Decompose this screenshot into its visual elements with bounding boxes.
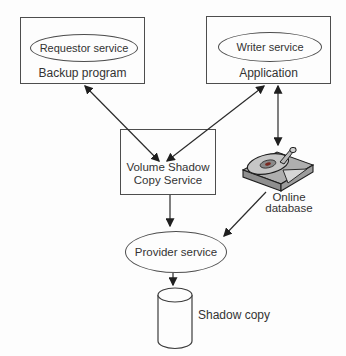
- requestor-service-ellipse: Requestor service: [30, 34, 138, 62]
- application-box: Writer service Application: [206, 16, 331, 84]
- hard-disk-icon: [243, 147, 313, 191]
- backup-program-box: Requestor service Backup program: [20, 17, 145, 84]
- vss-architecture-diagram: Requestor service Backup program Writer …: [0, 0, 346, 356]
- shadow-copy-cylinder-icon: [158, 288, 192, 349]
- vss-label: Volume Shadow Copy Service: [121, 161, 215, 187]
- online-database-label: Online database: [258, 192, 320, 214]
- online-database-label-line1: Online: [258, 192, 320, 203]
- online-database-label-line2: database: [258, 203, 320, 214]
- backup-program-label: Backup program: [21, 66, 144, 80]
- volume-shadow-copy-service-box: Volume Shadow Copy Service: [120, 129, 216, 195]
- writer-service-label: Writer service: [236, 41, 303, 53]
- requestor-service-label: Requestor service: [40, 42, 129, 54]
- vss-label-line2: Copy Service: [121, 174, 215, 187]
- vss-label-line1: Volume Shadow: [121, 161, 215, 174]
- writer-service-ellipse: Writer service: [218, 32, 322, 62]
- provider-service-label: Provider service: [135, 246, 217, 258]
- shadow-copy-label: Shadow copy: [198, 308, 270, 322]
- provider-service-ellipse: Provider service: [125, 231, 227, 273]
- application-label: Application: [207, 66, 330, 80]
